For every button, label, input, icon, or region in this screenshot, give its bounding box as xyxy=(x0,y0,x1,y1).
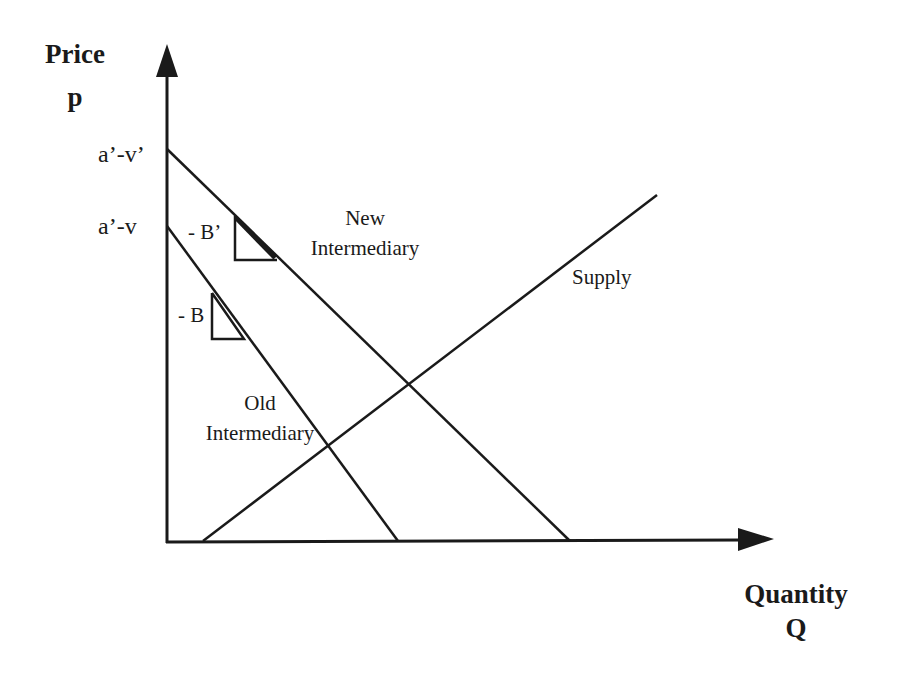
supply-label: Supply xyxy=(572,264,632,290)
x-axis-symbol: Q xyxy=(728,612,864,644)
slope-triangle-b xyxy=(212,293,244,339)
y-tick-new-intercept: a’-v’ xyxy=(98,141,145,168)
slope-label-b: - B xyxy=(178,303,204,328)
x-axis xyxy=(166,540,742,542)
old-intermediary-label-line2: Intermediary xyxy=(190,420,330,446)
x-axis-arrowhead-icon xyxy=(738,528,774,551)
old-intermediary-label: Old Intermediary xyxy=(190,390,330,446)
y-axis-title-text: Price xyxy=(30,38,120,70)
new-intermediary-label: New Intermediary xyxy=(295,205,435,261)
slope-triangle-b-prime-hypotenuse xyxy=(236,218,275,258)
y-tick-old-intercept: a’-v xyxy=(98,213,137,240)
y-axis-symbol: p xyxy=(30,81,120,113)
y-axis-arrowhead-icon xyxy=(156,44,178,77)
slope-label-b-prime: - B’ xyxy=(188,220,221,245)
new-intermediary-label-line1: New xyxy=(295,205,435,231)
old-intermediary-demand-line xyxy=(167,226,398,541)
new-intermediary-label-line2: Intermediary xyxy=(295,235,435,261)
x-axis-title-text: Quantity xyxy=(728,578,864,610)
x-axis-title: Quantity Q xyxy=(728,578,864,644)
old-intermediary-label-line1: Old xyxy=(190,390,330,416)
y-axis-title: Price p xyxy=(30,38,120,113)
